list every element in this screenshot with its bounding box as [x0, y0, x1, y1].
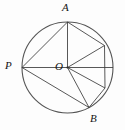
point-label-o: O — [55, 61, 63, 72]
point-label-a: A — [62, 2, 69, 13]
center-point-o — [66, 66, 68, 68]
geometry-figure: A P O B — [0, 0, 125, 130]
chord-s-b — [89, 88, 105, 108]
radius-o-q — [68, 46, 105, 68]
chord-q-s — [105, 46, 106, 89]
point-label-b: B — [90, 113, 97, 124]
point-label-p: P — [5, 60, 12, 71]
